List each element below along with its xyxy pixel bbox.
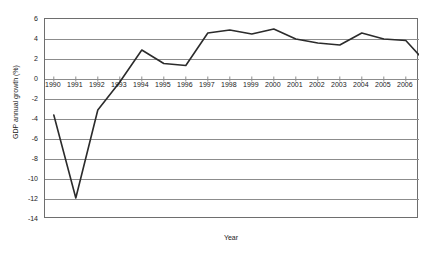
y-axis-title: GDP annual growth (%) — [12, 42, 20, 162]
x-tick-label: 1997 — [199, 81, 215, 89]
x-tick-label: 1996 — [177, 81, 193, 89]
y-tick-label: 0 — [34, 75, 38, 82]
data-series-line — [45, 19, 419, 219]
x-tick-label: 1991 — [67, 81, 83, 89]
x-tick-label: 1999 — [243, 81, 259, 89]
y-tick-label: -4 — [32, 115, 38, 122]
x-tick-label: 1995 — [155, 81, 171, 89]
x-tick-label: 2004 — [353, 81, 369, 89]
y-axis: 6420-2-4-6-8-10-12-14 — [0, 0, 44, 256]
series-gdp-annual-growth — [54, 29, 419, 198]
y-tick-label: -14 — [28, 215, 38, 222]
y-tick-label: -6 — [32, 135, 38, 142]
x-tick-label: 2002 — [309, 81, 325, 89]
x-tick-label: 1998 — [221, 81, 237, 89]
y-tick-label: 2 — [34, 55, 38, 62]
x-tick-label: 2003 — [331, 81, 347, 89]
x-axis-title: Year — [44, 234, 418, 242]
plot-area — [44, 18, 418, 218]
x-tick-label: 1990 — [45, 81, 61, 89]
x-tick-label: 2001 — [287, 81, 303, 89]
x-axis: 1990199119921993199419951996199719981999… — [44, 81, 418, 93]
y-tick-label: -10 — [28, 175, 38, 182]
x-tick-label: 1993 — [111, 81, 127, 89]
x-tick-label: 2005 — [375, 81, 391, 89]
x-tick-label: 1994 — [133, 81, 149, 89]
gdp-growth-line-chart: 6420-2-4-6-8-10-12-14 GDP annual growth … — [0, 0, 426, 256]
y-tick-label: -2 — [32, 95, 38, 102]
x-tick-label: 2006 — [397, 81, 413, 89]
y-tick-label: -12 — [28, 195, 38, 202]
y-tick-label: 4 — [34, 35, 38, 42]
y-tick-label: 6 — [34, 15, 38, 22]
y-tick-label: -8 — [32, 155, 38, 162]
x-tick-label: 1992 — [89, 81, 105, 89]
x-tick-label: 2000 — [265, 81, 281, 89]
